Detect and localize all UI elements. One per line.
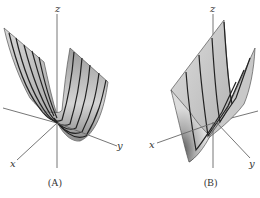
caption-a: (A) (48, 177, 62, 189)
surface-left-sheet-a (4, 28, 58, 118)
x-axis-label-a: x (10, 158, 16, 169)
y-axis-label-b: y (248, 158, 255, 169)
y-axis-label-a: y (116, 140, 123, 151)
z-axis-label-a: z (54, 3, 61, 14)
z-axis-label-b: z (209, 3, 216, 14)
figure-b: z x y (B) (149, 3, 258, 189)
x-axis-a (17, 123, 57, 160)
y-axis-b (216, 122, 250, 158)
caption-b: (B) (204, 177, 217, 189)
x-axis-label-b: x (149, 139, 155, 150)
figure-a: z x y (A) (3, 3, 123, 189)
figure-canvas: z x y (A) z x y (B) (0, 0, 260, 198)
